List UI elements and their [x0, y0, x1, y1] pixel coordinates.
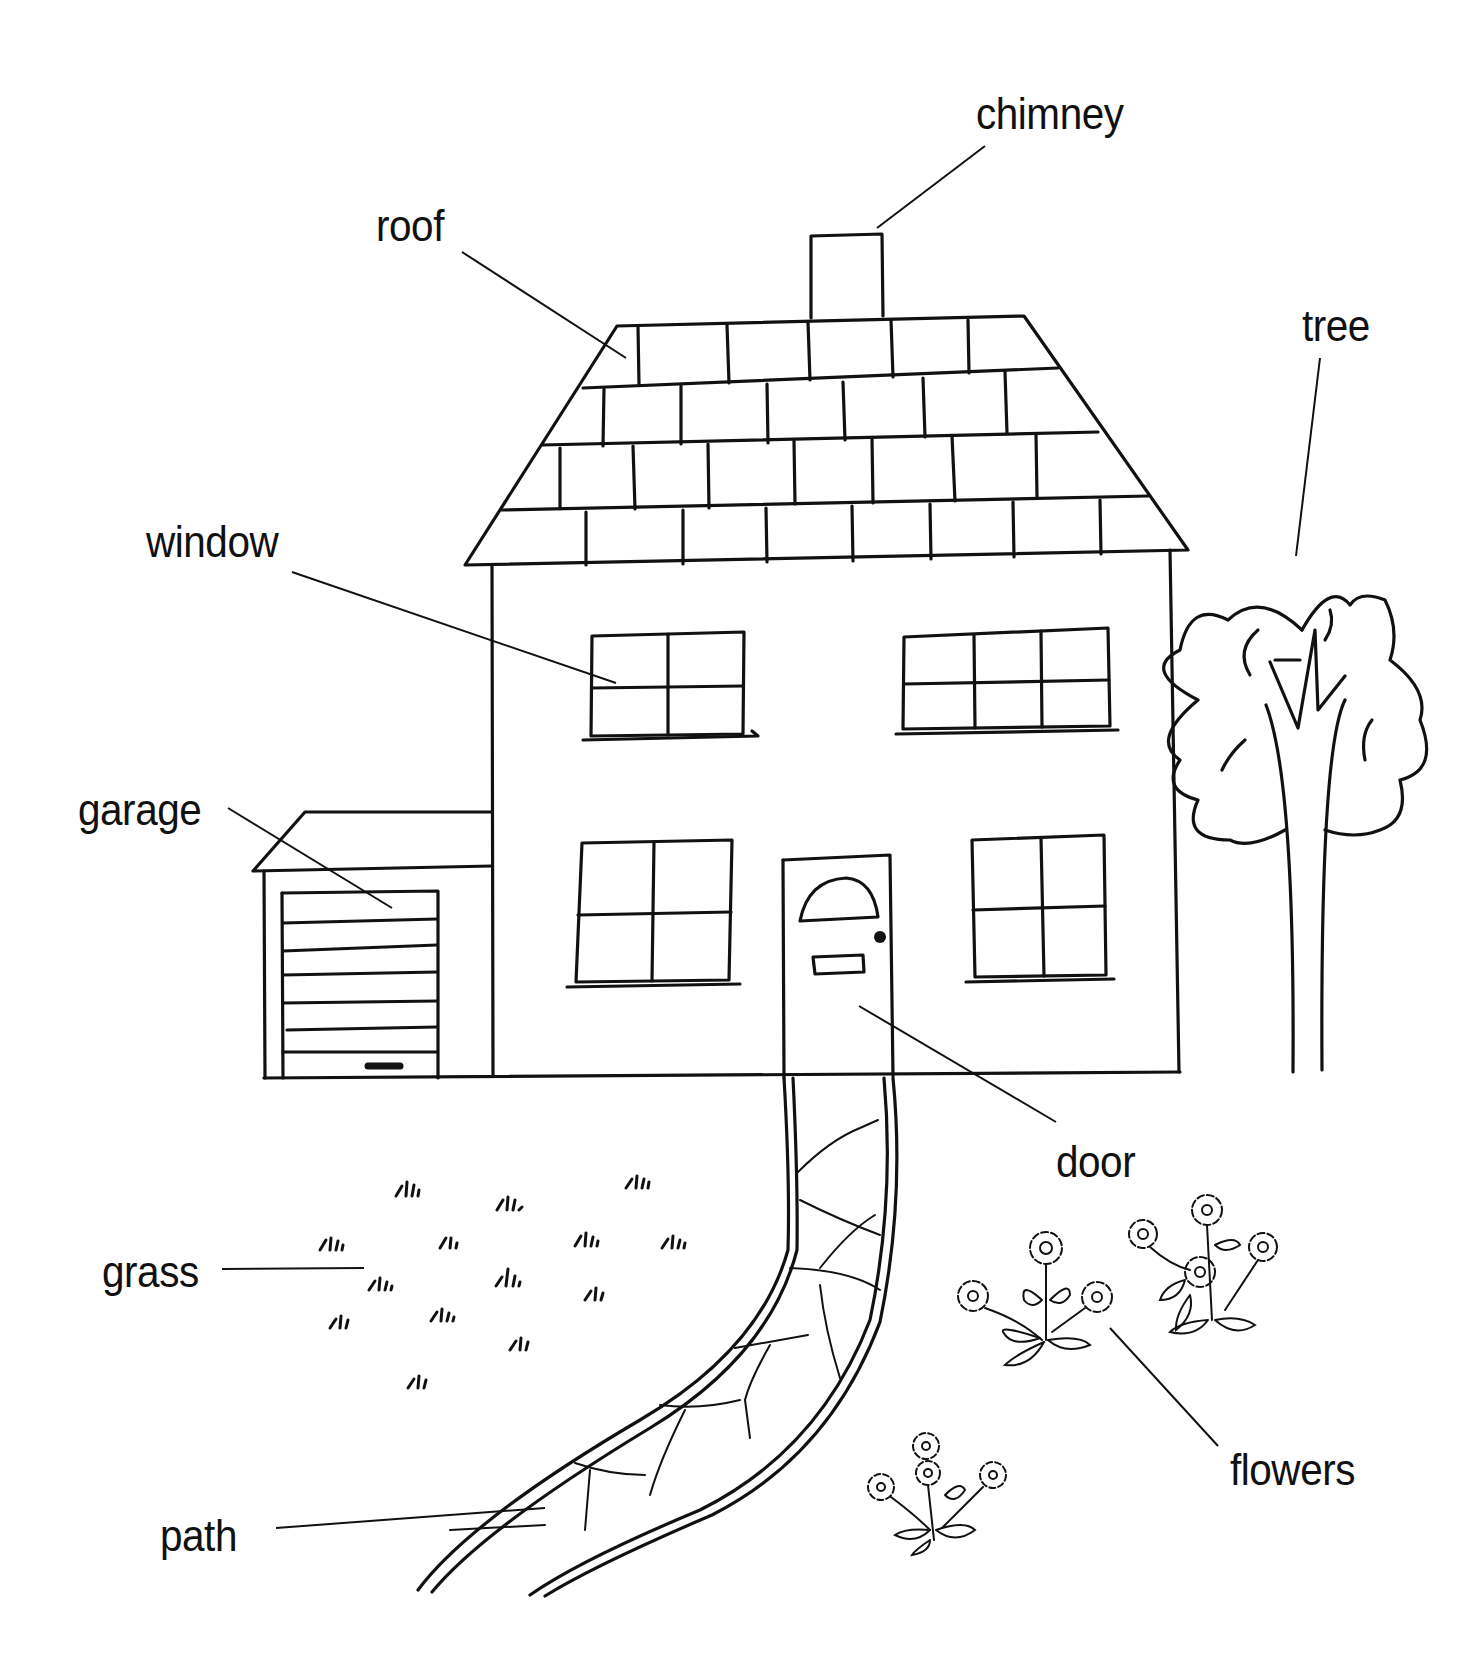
- house-drawing: [0, 0, 1474, 1671]
- tree-leader: [1296, 358, 1320, 556]
- tree-shape: [1164, 596, 1427, 1072]
- chimney-leader: [877, 146, 985, 228]
- label-garage: garage: [78, 788, 201, 832]
- label-tree: tree: [1302, 304, 1370, 348]
- roof-leader: [462, 252, 626, 358]
- flower-cluster-2: [1129, 1195, 1277, 1334]
- house-diagram: chimney roof tree window garage door gra…: [0, 0, 1474, 1671]
- door-knob-icon: [874, 931, 886, 943]
- label-door: door: [1056, 1140, 1135, 1184]
- lower-left-window: [567, 840, 740, 987]
- grass-leader: [222, 1268, 364, 1269]
- grass-tufts: [320, 1176, 685, 1388]
- leader-lines: [222, 146, 1320, 1528]
- garage-shape: [253, 812, 492, 1078]
- path-shape: [418, 1078, 897, 1596]
- label-window: window: [146, 520, 278, 564]
- flower-cluster-3: [868, 1433, 1006, 1555]
- label-flowers: flowers: [1230, 1448, 1355, 1492]
- label-path: path: [160, 1514, 237, 1558]
- window-leader: [292, 572, 616, 683]
- roof-shape: [465, 316, 1188, 565]
- door-leader: [859, 1006, 1056, 1122]
- chimney-shape: [811, 234, 883, 318]
- label-grass: grass: [102, 1250, 199, 1294]
- flowers-shape: [868, 1195, 1277, 1555]
- flowers-leader: [1110, 1328, 1218, 1446]
- upper-right-window: [896, 628, 1118, 734]
- upper-left-window: [583, 632, 758, 740]
- flower-cluster-1: [958, 1232, 1112, 1365]
- door-shape: [783, 855, 893, 1078]
- house-walls: [264, 550, 1180, 1078]
- lower-right-window: [966, 835, 1114, 982]
- label-roof: roof: [376, 204, 444, 248]
- label-chimney: chimney: [976, 92, 1124, 136]
